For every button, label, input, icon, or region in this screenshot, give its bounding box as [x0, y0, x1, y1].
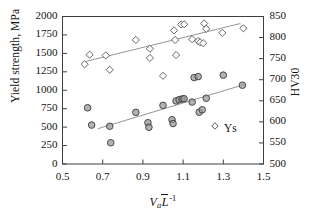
x-tick-label: 1.1	[163, 170, 203, 182]
y-tick-label-right: 700	[270, 72, 312, 84]
data-point-hv30	[106, 66, 113, 73]
y-tick-label-right: 500	[270, 157, 312, 169]
x-tick-label: 1.3	[203, 170, 243, 182]
x-axis-label: VaL-1	[62, 193, 264, 210]
data-point-ys	[146, 124, 153, 131]
data-point-ys	[239, 82, 246, 89]
data-point-ys	[181, 95, 188, 102]
data-point-ys	[106, 123, 113, 130]
x-axis-ticks	[63, 160, 264, 165]
x-tick-label: 0.7	[83, 170, 123, 182]
data-point-hv30	[189, 36, 196, 43]
y-tick-label-left: 500	[16, 120, 58, 132]
data-point-ys	[199, 106, 206, 113]
data-point-hv30	[159, 72, 166, 79]
data-point-ys	[88, 122, 95, 129]
x-tick-label: 0.5	[43, 170, 83, 182]
y-tick-label-right: 850	[270, 9, 312, 21]
data-point-hv30	[219, 29, 226, 36]
y-tick-label-left: 1250	[16, 64, 58, 76]
y-tick-label-left: 750	[16, 101, 58, 113]
y-tick-label-right: 600	[270, 114, 312, 126]
chart-figure: Yield strength, MPa HV30 VaL-1 Ys 025050…	[0, 0, 317, 218]
y-tick-label-right: 750	[270, 51, 312, 63]
legend-item-ys-label: Ys	[224, 122, 237, 134]
y-tick-label-right: 800	[270, 30, 312, 42]
data-point-hv30	[172, 51, 179, 58]
data-point-hv30	[86, 51, 93, 58]
y-tick-label-left: 2000	[16, 9, 58, 21]
data-point-ys	[170, 120, 177, 127]
data-point-ys	[189, 99, 196, 106]
data-point-hv30	[171, 36, 178, 43]
y-axis-ticks-right	[259, 17, 264, 165]
data-point-ys	[195, 73, 202, 80]
y-tick-label-left: 1500	[16, 46, 58, 58]
x-axis-label-superscript: -1	[169, 193, 176, 203]
x-axis-label-symbol: V	[150, 195, 157, 209]
data-point-ys	[107, 139, 114, 146]
data-point-hv30	[81, 61, 88, 68]
data-point-ys	[133, 109, 140, 116]
data-point-hv30	[240, 25, 247, 32]
x-axis-label-second-symbol: L	[161, 195, 169, 210]
plot-frame	[63, 17, 264, 165]
y-tick-label-left: 1000	[16, 83, 58, 95]
data-point-hv30	[132, 36, 139, 43]
y-tick-label-left: 250	[16, 138, 58, 150]
data-point-ys	[160, 102, 167, 109]
y-tick-label-left: 1750	[16, 27, 58, 39]
legend-marker	[212, 123, 218, 129]
y-tick-label-right: 550	[270, 135, 312, 147]
data-point-hv30	[170, 27, 177, 34]
y-tick-label-left: 0	[16, 157, 58, 169]
data-point-markers	[81, 20, 247, 146]
x-tick-label: 1.5	[244, 170, 284, 182]
y-tick-label-right: 650	[270, 93, 312, 105]
legend-diamond-icon	[212, 123, 218, 129]
data-point-ys	[220, 72, 227, 79]
data-point-hv30	[102, 52, 109, 59]
data-point-ys	[84, 105, 91, 112]
y-axis-ticks-left	[63, 17, 68, 165]
x-tick-label: 0.9	[123, 170, 163, 182]
data-point-hv30	[146, 54, 153, 61]
data-point-ys	[203, 95, 210, 102]
